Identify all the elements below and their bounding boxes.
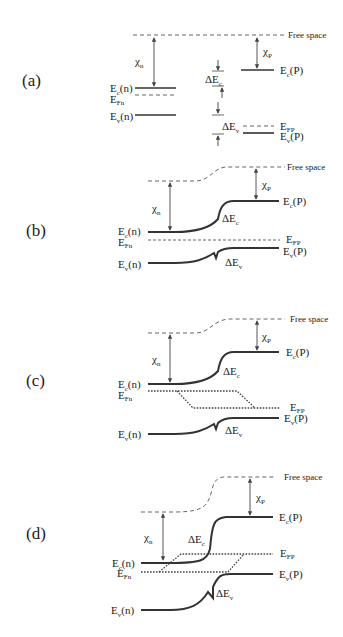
valence-band (141, 574, 273, 610)
quasi-fermi-p (177, 391, 280, 408)
efn-label: EFn (117, 567, 132, 581)
chi-n-label: χn (143, 531, 153, 546)
chi-p-label: χP (261, 330, 271, 345)
chi-n-label: χn (151, 353, 161, 368)
panel-c: (c) Free space χn χP Ec(n) EFn Ev(n) ΔEc… (26, 314, 328, 443)
ev-n-label: Ev(n) (118, 428, 141, 443)
ev-n-label: Ev(n) (118, 258, 141, 273)
ev-n-label: Ev(n) (111, 604, 134, 619)
valence-band (148, 248, 279, 263)
delta-ev-label: ΔEv (216, 587, 234, 602)
panel-label-b: (b) (26, 221, 46, 240)
conduction-band (148, 352, 279, 384)
chi-p-label: χP (255, 491, 265, 506)
free-space-label: Free space (290, 314, 328, 324)
ec-p-label: Ec(P) (283, 195, 307, 210)
efp-label: EFP (280, 547, 295, 561)
chi-p-label: χP (262, 45, 272, 60)
ev-p-label: Ev(P) (280, 130, 304, 145)
chi-p-label: χP (261, 178, 271, 193)
ec-p-label: Ec(P) (280, 64, 304, 79)
free-space-label: Free space (287, 162, 325, 172)
delta-ec-label: ΔEc (223, 365, 240, 380)
panel-b: (b) Free space χn χP Ec(n) EFn Ev(n) ΔEc… (26, 162, 325, 273)
ec-p-label: Ec(P) (279, 511, 303, 526)
delta-ec-label: ΔEc (222, 212, 239, 227)
quasi-fermi-n (148, 391, 255, 408)
ev-p-label: Ev(P) (279, 568, 303, 583)
ev-p-label: Ev(P) (284, 412, 308, 427)
panel-a: (a) Free space χn Ec(n) EFn Ev(n) ΔEc ΔE… (22, 30, 326, 146)
free-space-line (141, 477, 275, 512)
valence-band (148, 418, 279, 434)
panel-label-c: (c) (26, 371, 45, 390)
delta-ec-label: ΔEc (188, 533, 205, 548)
free-space-label: Free space (284, 472, 322, 482)
conduction-band (148, 201, 279, 232)
delta-ev-label: ΔEv (222, 120, 240, 135)
band-diagram: (a) Free space χn Ec(n) EFn Ev(n) ΔEc ΔE… (0, 0, 343, 637)
conduction-band (141, 517, 273, 563)
panel-label-a: (a) (22, 71, 41, 90)
delta-ev-label: ΔEv (225, 256, 243, 271)
ev-p-label: Ev(P) (283, 245, 307, 260)
chi-n-label: χn (134, 55, 144, 70)
free-space-label: Free space (288, 30, 326, 40)
panel-label-d: (d) (26, 524, 46, 543)
ec-p-label: Ec(P) (286, 346, 310, 361)
panel-d: (d) Free space χn χP Ec(n) EFn Ev(n) ΔEc… (26, 472, 322, 619)
chi-n-label: χn (151, 202, 161, 217)
ev-n-label: Ev(n) (110, 110, 133, 125)
delta-ev-label: ΔEv (225, 424, 243, 439)
